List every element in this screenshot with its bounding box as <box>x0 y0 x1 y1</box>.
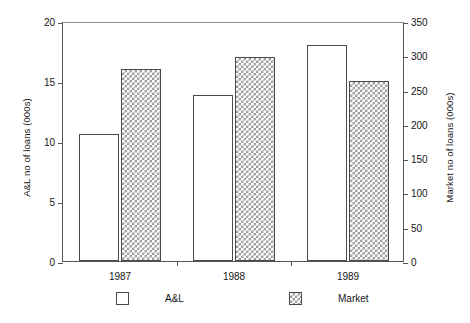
left-axis-title: A&L no of loans (000s) <box>21 68 32 228</box>
left-tick-mark <box>58 23 63 24</box>
right-tick-label: 50 <box>411 224 422 234</box>
category-separator-tick <box>291 261 292 266</box>
right-tick-label: 350 <box>411 18 428 28</box>
plot-area: 05101520 050100150200250300350 198719881… <box>62 22 404 262</box>
left-tick-mark <box>58 263 63 264</box>
left-tick-label: 15 <box>44 78 55 88</box>
bar-al-1987 <box>79 134 119 261</box>
right-tick-mark <box>403 263 408 264</box>
category-label: 1987 <box>109 271 131 282</box>
right-tick-label: 0 <box>411 258 417 268</box>
left-tick-label: 20 <box>44 18 55 28</box>
right-tick-mark <box>403 23 408 24</box>
chart-legend: A&LMarket <box>62 292 404 314</box>
right-tick-mark <box>403 92 408 93</box>
category-label: 1989 <box>337 271 359 282</box>
left-tick-label: 0 <box>49 258 55 268</box>
legend-item-market[interactable]: Market <box>289 292 369 305</box>
right-tick-label: 300 <box>411 52 428 62</box>
right-tick-label: 250 <box>411 87 428 97</box>
legend-item-al[interactable]: A&L <box>116 292 184 305</box>
left-tick-mark <box>58 143 63 144</box>
right-tick-label: 200 <box>411 121 428 131</box>
category-separator-tick <box>177 261 178 266</box>
bar-al-1989 <box>307 45 347 261</box>
bar-al-1988 <box>193 95 233 261</box>
left-tick-label: 5 <box>49 198 55 208</box>
right-tick-label: 150 <box>411 155 428 165</box>
left-tick-label: 10 <box>44 138 55 148</box>
right-tick-mark <box>403 229 408 230</box>
legend-label: A&L <box>165 293 184 304</box>
right-axis-title: Market no of loans (000s) <box>444 68 455 228</box>
right-tick-mark <box>403 57 408 58</box>
bar-market-1989 <box>349 81 389 261</box>
bar-market-1987 <box>121 69 161 261</box>
crosshatch-square-icon <box>289 292 302 305</box>
right-tick-mark <box>403 160 408 161</box>
white-square-icon <box>116 292 129 305</box>
right-tick-mark <box>403 194 408 195</box>
bar-market-1988 <box>235 57 275 261</box>
right-tick-mark <box>403 126 408 127</box>
category-label: 1988 <box>223 271 245 282</box>
legend-label: Market <box>338 293 369 304</box>
left-tick-mark <box>58 203 63 204</box>
left-tick-mark <box>58 83 63 84</box>
bar-chart-figure: A&L no of loans (000s) Market no of loan… <box>0 0 470 323</box>
right-tick-label: 100 <box>411 189 428 199</box>
